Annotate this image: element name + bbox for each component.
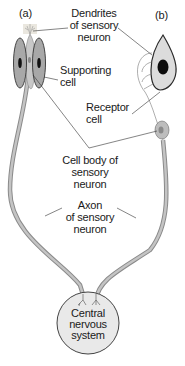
cell-body-label: Cell body of sensory neuron [58, 154, 122, 190]
axon-label: Axon of sensory neuron [60, 199, 120, 235]
receptor-nucleus [158, 60, 169, 75]
nucleus-left [18, 58, 22, 68]
nucleus-right [37, 58, 41, 68]
panel-label-b: (b) [155, 9, 168, 21]
panel-label-a: (a) [19, 7, 32, 19]
receptor-cell-label: Receptor cell [86, 101, 129, 125]
dendrites-label: Dendrites of sensory neuron [64, 7, 124, 43]
cns-label: Central nervous system [60, 308, 116, 341]
supporting-cell-label: Supporting cell [60, 64, 111, 88]
